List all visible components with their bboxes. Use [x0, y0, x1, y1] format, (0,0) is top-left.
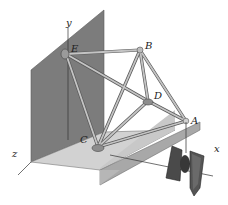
hanging-weight	[166, 146, 204, 196]
joint-label-a: A	[190, 115, 198, 126]
joint-label-b: B	[144, 40, 152, 51]
joint-e	[61, 49, 69, 59]
floor-side-panel	[100, 170, 120, 185]
joint-label-e: E	[70, 43, 79, 54]
joint-b	[137, 47, 143, 53]
joint-d	[143, 99, 153, 105]
axis-label-y: y	[65, 17, 72, 28]
axis-label-x: x	[214, 143, 220, 154]
z-axis	[18, 162, 31, 175]
truss-figure: y E B D C A z x	[0, 0, 228, 205]
axis-label-z: z	[11, 148, 18, 159]
joint-label-d: D	[153, 90, 162, 101]
joint-label-c: C	[80, 134, 88, 145]
truss-diagram: y E B D C A z x	[0, 0, 228, 205]
joint-c	[92, 145, 104, 152]
